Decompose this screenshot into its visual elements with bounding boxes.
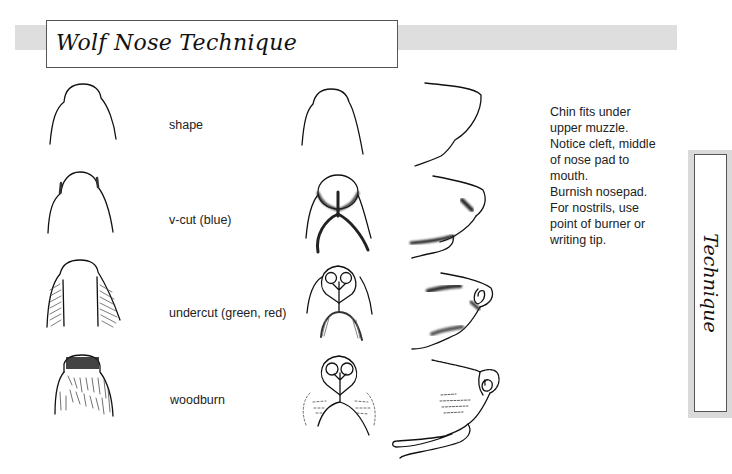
- muzzle-front-shape-icon: [50, 84, 116, 144]
- nose-profile-woodburn-icon: [393, 360, 499, 458]
- muzzle-front-undercut-icon: [47, 260, 120, 327]
- nose-profile-undercut-icon: [412, 273, 493, 349]
- muzzle-front-vcut-icon: [48, 172, 113, 233]
- illustrations: [0, 0, 732, 474]
- nose-front-undercut-icon: [307, 266, 372, 340]
- nose-profile-vcut-icon: [411, 176, 485, 258]
- muzzle-front-woodburn-icon: [55, 355, 113, 416]
- nose-front-vcut-icon: [306, 175, 371, 252]
- nose-front-woodburn-icon: [303, 356, 375, 435]
- nose-profile-shape-icon: [415, 83, 481, 166]
- nose-front-shape-icon: [302, 89, 363, 154]
